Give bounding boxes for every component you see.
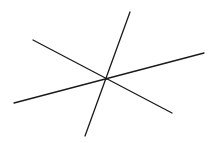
line-c [33, 40, 172, 113]
diagram-canvas [0, 0, 216, 143]
line-b [14, 53, 204, 103]
intersection-point [105, 78, 107, 80]
concurrent-lines-diagram [0, 0, 216, 143]
